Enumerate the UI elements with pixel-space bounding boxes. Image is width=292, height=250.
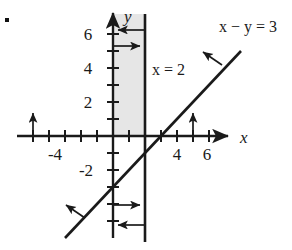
diagonal-lower-normal-arrow	[66, 205, 85, 218]
shaded-region	[113, 14, 145, 136]
x-tick-label-neg4: -4	[48, 145, 63, 164]
x-axis-label: x	[239, 128, 248, 147]
x-tick-label-6: 6	[203, 145, 212, 164]
bullet-marker	[5, 18, 9, 22]
y-tick-label-4: 4	[84, 59, 93, 78]
vertical-line-label: x = 2	[152, 61, 185, 78]
diagonal-line-label: x − y = 3	[219, 18, 277, 36]
y-tick-label-neg2: -2	[79, 161, 93, 180]
diagonal-upper-normal-arrow	[203, 52, 222, 65]
y-tick-label-6: 6	[84, 25, 93, 44]
diagonal-line-x-minus-y-equals-3	[65, 51, 241, 238]
math-graph-figure: y x 6 4 2 -2 -4 4 6 x = 2 x − y = 3	[0, 0, 292, 250]
y-tick-label-2: 2	[84, 93, 93, 112]
coordinate-plane-svg: y x 6 4 2 -2 -4 4 6 x = 2 x − y = 3	[0, 0, 292, 250]
x-tick-label-4: 4	[173, 145, 182, 164]
y-axis-label: y	[122, 7, 132, 26]
